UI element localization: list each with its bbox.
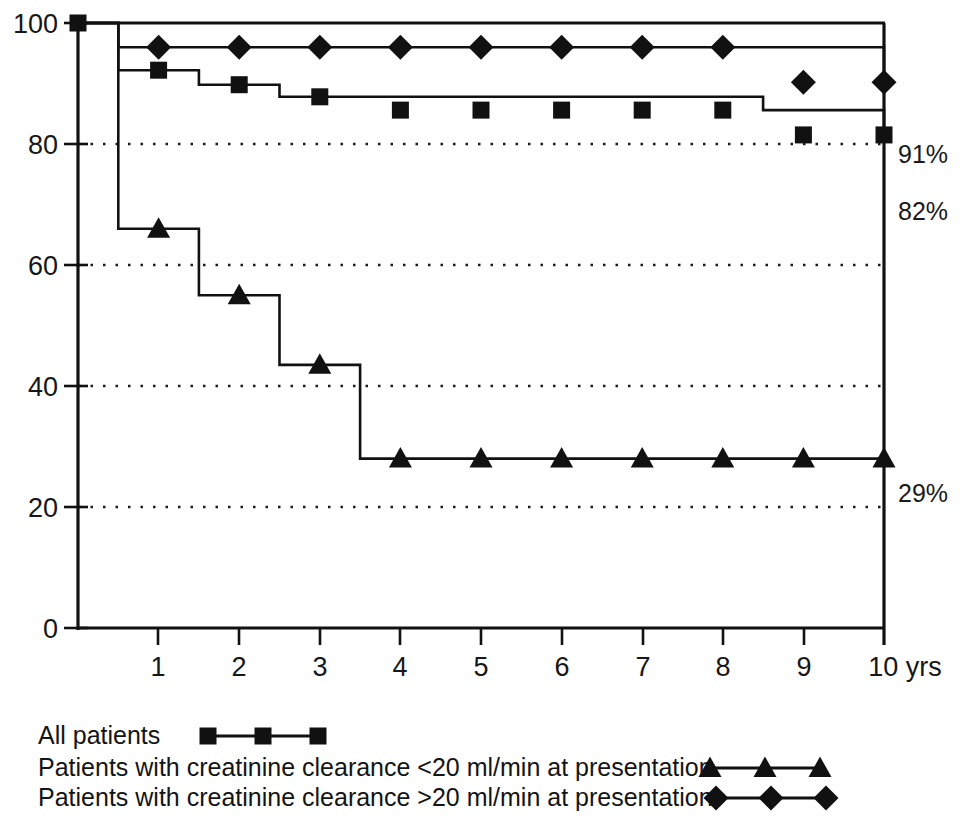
legend-key-clearance-above-20-marker-1 xyxy=(759,786,784,811)
x-tick-label-8: 8 xyxy=(715,652,730,682)
data-point-diamond-year-8 xyxy=(710,35,735,60)
y-ticks xyxy=(64,23,88,628)
data-point-diamond-year-3 xyxy=(307,35,332,60)
data-point-diamond-year-9 xyxy=(791,70,816,95)
annotation-82-percent: 82% xyxy=(898,197,948,225)
data-point-diamond-year-2 xyxy=(227,35,252,60)
x-tick-label-10-yrs: 10 yrs xyxy=(868,652,942,682)
series-triangle xyxy=(78,23,896,468)
y-tick-labels: 100 80 60 40 20 0 xyxy=(13,9,58,644)
legend: All patients Patients with creatinine cl… xyxy=(38,721,839,811)
x-tick-label-6: 6 xyxy=(554,652,569,682)
data-point-square-year-2 xyxy=(231,76,248,93)
y-tick-label-20: 20 xyxy=(28,493,58,523)
data-point-square-year-1 xyxy=(150,62,167,79)
x-tick-label-7: 7 xyxy=(635,652,650,682)
legend-key-all-patients xyxy=(200,728,327,745)
legend-label-clearance-below-20: Patients with creatinine clearance <20 m… xyxy=(38,753,713,781)
x-tick-label-5: 5 xyxy=(473,652,488,682)
survival-curve-chart: 100 80 60 40 20 0 1 2 3 4 5 6 7 xyxy=(0,0,970,839)
legend-key-clearance-above-20-marker-2 xyxy=(814,786,839,811)
x-tick-label-1: 1 xyxy=(150,652,165,682)
legend-key-all-patients-marker-1 xyxy=(255,728,272,745)
data-point-diamond-year-7 xyxy=(630,35,655,60)
data-point-square-year-6 xyxy=(553,102,570,119)
y-tick-label-40: 40 xyxy=(28,372,58,402)
data-point-diamond-year-10 xyxy=(872,70,897,95)
legend-key-all-patients-marker-2 xyxy=(310,728,327,745)
data-point-diamond-year-5 xyxy=(469,35,494,60)
x-tick-label-2: 2 xyxy=(231,652,246,682)
legend-key-clearance-below-20 xyxy=(699,757,832,777)
data-point-square-year-3 xyxy=(311,88,328,105)
curve-triangle xyxy=(78,23,884,459)
y-tick-label-100: 100 xyxy=(13,9,58,39)
series-square xyxy=(70,15,893,144)
legend-key-clearance-above-20 xyxy=(704,786,839,811)
legend-label-clearance-above-20: Patients with creatinine clearance >20 m… xyxy=(38,783,713,811)
series-layer xyxy=(70,15,897,468)
y-tick-label-60: 60 xyxy=(28,251,58,281)
y-tick-label-80: 80 xyxy=(28,130,58,160)
data-point-diamond-year-6 xyxy=(549,35,574,60)
data-point-square-year-9 xyxy=(795,126,812,143)
x-tick-labels: 1 2 3 4 5 6 7 8 9 10 yrs xyxy=(150,652,941,682)
right-annotations: 91% 82% 29% xyxy=(898,140,948,507)
x-tick-label-9: 9 xyxy=(796,652,811,682)
annotation-91-percent: 91% xyxy=(898,140,948,168)
x-tick-label-3: 3 xyxy=(312,652,327,682)
data-point-diamond-year-1 xyxy=(146,35,171,60)
x-ticks xyxy=(158,628,804,645)
annotation-29-percent: 29% xyxy=(898,479,948,507)
data-point-square-year-5 xyxy=(473,102,490,119)
data-point-square-year-7 xyxy=(634,102,651,119)
data-point-square-year-10 xyxy=(876,126,893,143)
data-point-diamond-year-4 xyxy=(388,35,413,60)
legend-key-all-patients-marker-0 xyxy=(200,728,217,745)
x-tick-label-4: 4 xyxy=(392,652,407,682)
chart-page: 100 80 60 40 20 0 1 2 3 4 5 6 7 xyxy=(0,0,970,839)
y-tick-label-0: 0 xyxy=(43,614,58,644)
legend-label-all-patients: All patients xyxy=(38,721,160,749)
data-point-square-year-8 xyxy=(714,102,731,119)
data-point-square-year-4 xyxy=(392,102,409,119)
